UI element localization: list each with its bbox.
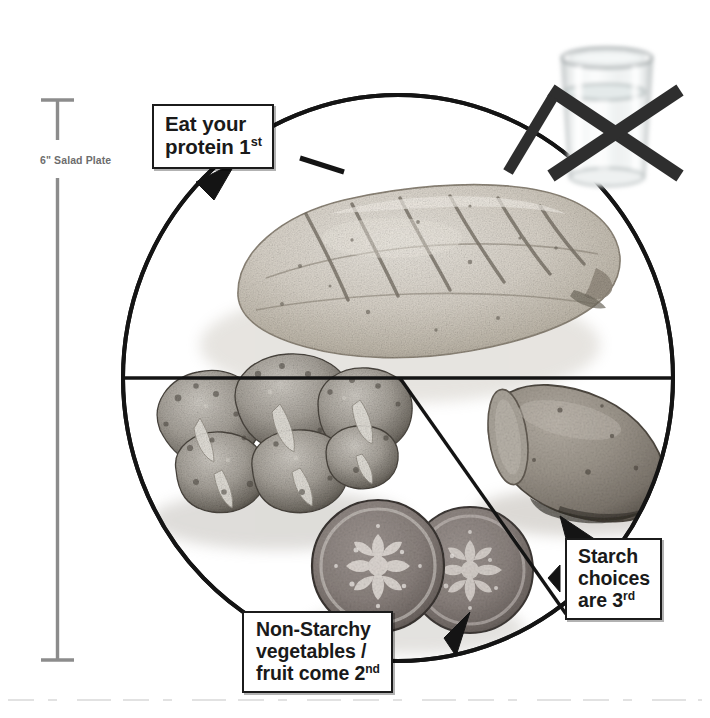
- callout-vegetables-line3: fruit come 2nd: [256, 663, 380, 685]
- callout-starch-line1: Starch: [578, 546, 650, 568]
- callout-protein-line2-text: protein 1: [165, 135, 251, 158]
- callout-vegetables-line2: vegetables /: [256, 641, 380, 663]
- callout-starch: Starch choices are 3rd: [565, 538, 662, 620]
- callout-protein-line1: Eat your: [165, 113, 262, 136]
- plate-size-label: 6" Salad Plate: [28, 142, 136, 178]
- callout-vegetables: Non-Starchy vegetables / fruit come 2nd: [242, 611, 393, 693]
- callout-vegetables-ordinal: nd: [365, 661, 380, 675]
- callout-starch-ordinal: rd: [623, 588, 635, 602]
- callout-protein-ordinal: st: [251, 134, 262, 149]
- salad-plate-figure: 6" Salad Plate Eat your protein 1st Non-…: [0, 0, 710, 718]
- callout-protein: Eat your protein 1st: [152, 104, 274, 169]
- callout-starch-line3-text: are 3: [578, 589, 623, 611]
- callout-starch-line3: are 3rd: [578, 590, 650, 612]
- plate-size-ruler: [41, 100, 74, 660]
- callout-vegetables-line3-text: fruit come 2: [256, 662, 365, 684]
- callout-vegetables-line1: Non-Starchy: [256, 619, 380, 641]
- callout-protein-line2: protein 1st: [165, 136, 262, 159]
- callout-starch-line2: choices: [578, 568, 650, 590]
